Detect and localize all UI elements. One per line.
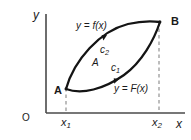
endpoint-dot-a <box>65 88 68 91</box>
c2-subscript: 2 <box>105 48 109 57</box>
curve-c2-upper <box>66 21 160 89</box>
curve-c1-name: c1 <box>111 63 120 74</box>
math-figure: y x O x1 x2 A B y = f(x) y = F(x) c2 c1 … <box>0 0 191 140</box>
origin-label: O <box>22 113 30 123</box>
x1-subscript: 1 <box>67 121 71 130</box>
y-axis-label: y <box>33 9 39 21</box>
c1-subscript: 1 <box>116 66 120 75</box>
endpoint-dot-b <box>159 21 162 24</box>
x2-tick-label: x2 <box>152 117 162 130</box>
curve-lower-equation: y = F(x) <box>114 84 148 94</box>
curve-upper-equation: y = f(x) <box>76 21 107 31</box>
curve-upper-equation-prefix: y = <box>76 20 92 31</box>
curve-lower-equation-fn: F(x) <box>130 83 148 94</box>
curve-upper-equation-fn: f(x) <box>92 20 106 31</box>
x2-subscript: 2 <box>158 121 162 130</box>
point-a-label: A <box>54 85 62 96</box>
x-axis-label: x <box>176 118 182 130</box>
point-b-label: B <box>171 16 179 27</box>
curve-lower-equation-prefix: y = <box>114 83 130 94</box>
region-area-label: A <box>92 58 99 68</box>
curve-c2-name: c2 <box>100 45 109 56</box>
curve-c1-lower <box>66 22 160 91</box>
x1-tick-label: x1 <box>61 117 71 130</box>
